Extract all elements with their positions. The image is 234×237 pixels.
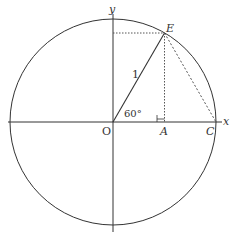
point-c-label: C	[206, 125, 215, 138]
angle-label: 60°	[124, 108, 142, 119]
point-a-label: A	[159, 125, 168, 138]
origin-label: O	[102, 125, 111, 138]
dotted-e-to-c	[165, 33, 217, 122]
unit-circle-diagram: y x E 1 60° O A C	[0, 0, 234, 237]
radius-label: 1	[132, 68, 139, 81]
x-axis-label: x	[223, 115, 230, 128]
point-e-label: E	[165, 22, 174, 35]
y-axis-label: y	[108, 3, 116, 16]
